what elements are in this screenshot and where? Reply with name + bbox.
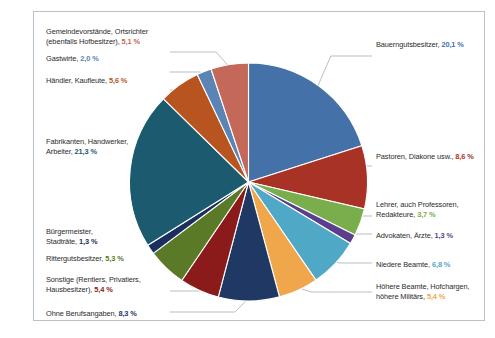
callout-text: Bauerngutsbesitzer, [376, 40, 441, 49]
callout-line-1: Gemeindevorstände, Ortsrichter [46, 27, 148, 37]
pie-callout-label: Fabrikanten, Handwerker,Arbeiter, 21,3 % [46, 137, 128, 157]
callout-text: Händler, Kaufleute, [46, 76, 109, 85]
pie-callout-label: Advokaten, Ärzte, 1,3 % [376, 231, 453, 241]
callout-line-1: Niedere Beamte, 6,8 % [376, 260, 450, 270]
pie-callout-label: Höhere Beamte, Hofchargen,höhere Militär… [376, 282, 470, 302]
callout-percent: 6,8 % [432, 260, 450, 269]
pie-callout-label: Bürgermeister,Stadträte, 1,3 % [46, 227, 97, 247]
callout-percent: 3,7 % [417, 210, 435, 219]
callout-percent: 5,6 % [109, 76, 127, 85]
pie-callout-label: Gastwirte, 2,0 % [46, 54, 99, 64]
pie-callout-label: Händler, Kaufleute, 5,6 % [46, 76, 127, 86]
callout-line-1: Pastoren, Diakone usw., 8,6 % [376, 152, 474, 162]
callout-text: Advokaten, Ärzte, [376, 231, 435, 240]
callout-text: Niedere Beamte, [376, 260, 432, 269]
callout-text: Pastoren, Diakone usw., [376, 152, 455, 161]
leader-line [297, 287, 372, 292]
callout-line-2: Hausbesitzer), 5,4 % [46, 285, 141, 295]
leader-line [333, 262, 372, 264]
pie-callout-label: Sonstige (Rentiers, Privatiers,Hausbesit… [46, 275, 141, 295]
callout-percent: 5,4 % [94, 285, 112, 294]
callout-text: Hausbesitzer), [46, 285, 94, 294]
pie-callout-label: Pastoren, Diakone usw., 8,6 % [376, 152, 474, 162]
callout-text: Gastwirte, [46, 54, 80, 63]
callout-percent: 8,3 % [118, 309, 136, 318]
callout-percent: 20,1 % [441, 40, 463, 49]
callout-text: Bürgermeister, [46, 227, 93, 236]
callout-line-2: höhere Militärs, 5,4 % [376, 292, 470, 302]
callout-line-1: Bürgermeister, [46, 227, 97, 237]
callout-line-2: Stadträte, 1,3 % [46, 237, 97, 247]
callout-text: Fabrikanten, Handwerker, [46, 137, 128, 146]
callout-percent: 2,0 % [80, 54, 98, 63]
pie-callout-label: Lehrer, auch Professoren,Redakteure, 3,7… [376, 200, 459, 220]
callout-line-1: Rittergutsbesitzer, 5,3 % [46, 254, 124, 264]
callout-percent: 5,3 % [105, 254, 123, 263]
callout-percent: 8,6 % [455, 152, 473, 161]
callout-percent: 5,4 % [427, 292, 445, 301]
pie-callout-label: Bauerngutsbesitzer, 20,1 % [376, 40, 464, 50]
callout-line-2: Arbeiter, 21,3 % [46, 147, 128, 157]
callout-text: Gemeindevorstände, Ortsrichter [46, 27, 148, 36]
callout-line-1: Advokaten, Ärzte, 1,3 % [376, 231, 453, 241]
callout-text: höhere Militärs, [376, 292, 427, 301]
callout-text: Redakteure, [376, 210, 417, 219]
pie-callout-label: Ohne Berufsangaben, 8,3 % [46, 309, 137, 319]
callout-line-1: Sonstige (Rentiers, Privatiers, [46, 275, 141, 285]
leader-line [317, 56, 372, 88]
callout-line-1: Bauerngutsbesitzer, 20,1 % [376, 40, 464, 50]
callout-text: Ohne Berufsangaben, [46, 309, 118, 318]
callout-percent: 1,3 % [79, 237, 97, 246]
callout-text: (ebenfalls Hofbesitzer), [46, 37, 122, 46]
pie-callout-label: Rittergutsbesitzer, 5,3 % [46, 254, 124, 264]
callout-line-1: Händler, Kaufleute, 5,6 % [46, 76, 127, 86]
callout-line-1: Höhere Beamte, Hofchargen, [376, 282, 470, 292]
callout-percent: 5,1 % [122, 37, 140, 46]
callout-text: Lehrer, auch Professoren, [376, 200, 459, 209]
callout-line-1: Gastwirte, 2,0 % [46, 54, 99, 64]
callout-text: Sonstige (Rentiers, Privatiers, [46, 275, 141, 284]
pie-chart-figure: Gemeindevorstände, Ortsrichter(ebenfalls… [0, 0, 495, 338]
callout-line-1: Lehrer, auch Professoren, [376, 200, 459, 210]
callout-text: Arbeiter, [46, 147, 75, 156]
callout-percent: 1,3 % [435, 231, 453, 240]
pie-callout-label: Niedere Beamte, 6,8 % [376, 260, 450, 270]
pie-callout-label: Gemeindevorstände, Ortsrichter(ebenfalls… [46, 27, 148, 47]
callout-text: Stadträte, [46, 237, 79, 246]
callout-line-1: Ohne Berufsangaben, 8,3 % [46, 309, 137, 319]
callout-text: Rittergutsbesitzer, [46, 254, 105, 263]
callout-text: Höhere Beamte, Hofchargen, [376, 282, 470, 291]
callout-line-1: Fabrikanten, Handwerker, [46, 137, 128, 147]
callout-line-2: (ebenfalls Hofbesitzer), 5,1 % [46, 37, 148, 47]
pie-slices [129, 63, 367, 301]
leader-line [170, 52, 230, 68]
callout-percent: 21,3 % [75, 147, 97, 156]
callout-line-2: Redakteure, 3,7 % [376, 210, 459, 220]
